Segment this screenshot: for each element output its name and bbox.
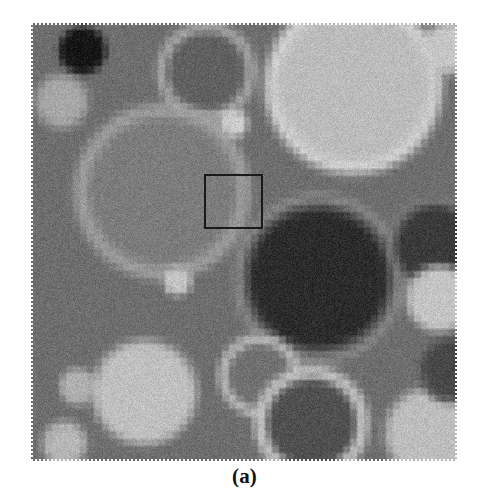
figure-container: (a)	[0, 0, 489, 497]
grayscale-image-panel	[31, 23, 457, 461]
figure-caption: (a)	[0, 464, 489, 489]
blob-texture-canvas	[31, 23, 457, 461]
